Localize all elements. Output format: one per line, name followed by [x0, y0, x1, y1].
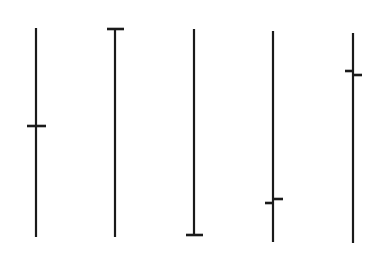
candle-1-doji-standard [27, 28, 46, 237]
candle-5-high-open-close [345, 33, 362, 243]
candles-svg [0, 0, 387, 258]
candlestick-diagram [0, 0, 387, 258]
candle-2-doji-gravestone-inverted-dragonfly [107, 29, 124, 237]
candle-4-low-open-close [265, 31, 283, 242]
candle-3-doji-gravestone [186, 29, 203, 235]
